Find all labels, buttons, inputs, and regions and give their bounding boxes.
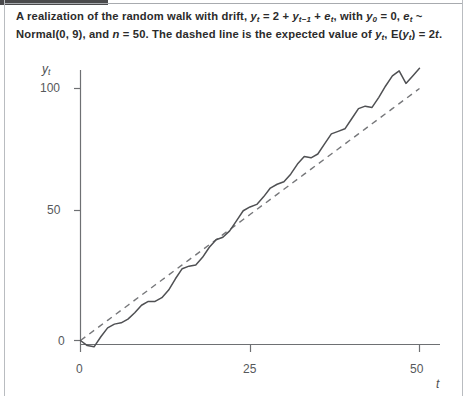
x-tick-label-0: 0 bbox=[76, 362, 83, 376]
y-tick-label-100: 100 bbox=[40, 81, 60, 95]
y-tick-label-50: 50 bbox=[47, 203, 60, 217]
random-walk-line bbox=[81, 68, 420, 346]
random-walk-plot bbox=[0, 0, 466, 396]
figure-page: A realization of the random walk with dr… bbox=[0, 0, 466, 396]
x-tick-label-25: 25 bbox=[243, 362, 256, 376]
x-axis-label: t bbox=[436, 377, 439, 391]
y-tick-label-0: 0 bbox=[58, 334, 65, 348]
y-axis-label: yt bbox=[42, 62, 50, 77]
x-tick-label-50: 50 bbox=[410, 362, 423, 376]
expected-value-line bbox=[81, 89, 420, 341]
